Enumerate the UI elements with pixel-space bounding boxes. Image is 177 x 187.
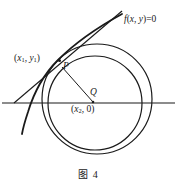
implicit-curve bbox=[22, 14, 122, 134]
radius-segment-pq bbox=[62, 67, 93, 102]
curve-equation-label: f(x, y)=0 bbox=[124, 15, 156, 25]
figure-container: f(x, y)=0 (x1, y1) P Q (x2, 0) 图 4 bbox=[0, 0, 177, 187]
point-p1-coordinates-label: (x1, y1) bbox=[14, 54, 40, 64]
point-q-coordinates-label: (x2, 0) bbox=[71, 105, 94, 115]
point-p-label: P bbox=[63, 62, 69, 72]
q-close-paren: ) bbox=[91, 104, 94, 114]
p1-close-paren: ) bbox=[37, 53, 40, 63]
figure-caption: 图 4 bbox=[0, 166, 177, 181]
point-q-label: Q bbox=[90, 88, 97, 98]
curve-equation-equals-zero: =0 bbox=[146, 14, 156, 24]
point-marker-p bbox=[58, 59, 61, 62]
point-marker-q bbox=[92, 101, 95, 104]
figure-drawing-canvas bbox=[0, 0, 177, 187]
